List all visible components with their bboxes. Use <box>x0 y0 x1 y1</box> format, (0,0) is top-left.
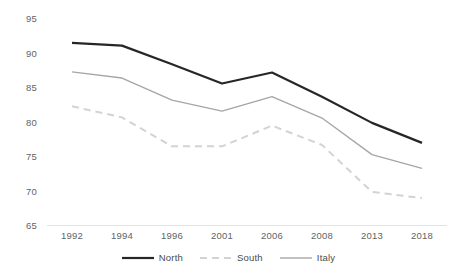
legend-label: North <box>159 252 183 263</box>
y-tick-label: 80 <box>26 116 37 127</box>
y-tick-label: 90 <box>26 47 37 58</box>
legend-item-south[interactable]: South <box>200 252 263 263</box>
legend-item-italy[interactable]: Italy <box>280 252 335 263</box>
y-tick-label: 85 <box>26 82 37 93</box>
legend-swatch-south-icon <box>200 253 232 263</box>
y-tick-label: 75 <box>26 151 37 162</box>
legend: NorthSouthItaly <box>0 252 457 263</box>
x-tick-label: 1992 <box>61 230 83 241</box>
x-tick-label: 2018 <box>411 230 433 241</box>
plot-area <box>47 18 447 225</box>
y-axis: 65707580859095 <box>0 18 42 225</box>
legend-swatch-italy-icon <box>280 253 312 263</box>
legend-item-north[interactable]: North <box>122 252 183 263</box>
x-tick-label: 2013 <box>361 230 383 241</box>
legend-swatch-north-icon <box>122 253 154 263</box>
x-tick-label: 1996 <box>161 230 183 241</box>
series-layer <box>47 18 447 225</box>
line-chart: 65707580859095 1992199419962001200620082… <box>0 0 457 276</box>
x-tick-label: 2006 <box>261 230 283 241</box>
y-tick-label: 70 <box>26 185 37 196</box>
x-tick-label: 2008 <box>311 230 333 241</box>
x-axis: 19921994199620012006200820132018 <box>47 228 447 246</box>
series-line-italy <box>72 72 422 169</box>
legend-label: Italy <box>317 252 335 263</box>
series-line-north <box>72 43 422 143</box>
legend-label: South <box>237 252 263 263</box>
x-axis-line <box>47 225 447 226</box>
y-tick-label: 65 <box>26 220 37 231</box>
y-tick-label: 95 <box>26 13 37 24</box>
x-tick-label: 2001 <box>211 230 233 241</box>
x-tick-label: 1994 <box>111 230 133 241</box>
